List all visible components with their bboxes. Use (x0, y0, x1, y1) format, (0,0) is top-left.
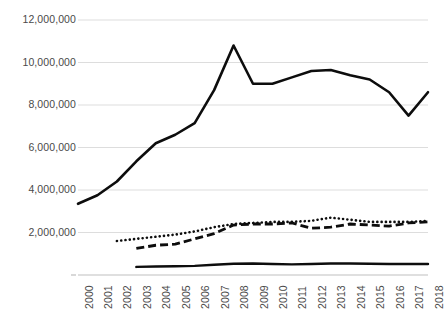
x-axis-tick-label: 2005 (180, 285, 192, 309)
x-axis-tick-label: 2010 (277, 285, 289, 309)
x-axis-tick-label: 2000 (83, 285, 95, 309)
x-axis-tick-label: 2015 (374, 285, 386, 309)
x-axis-tick-label: 2003 (141, 285, 153, 309)
x-axis-tick-label: 2009 (258, 285, 270, 309)
x-axis-tick-label: 2001 (102, 285, 114, 309)
x-axis-tick-label: 2012 (316, 285, 328, 309)
x-axis-tick-label: 2004 (160, 285, 172, 309)
x-axis-tick-label: 2006 (199, 285, 211, 309)
x-axis-tick-label: 2011 (296, 286, 308, 309)
x-axis-tick-label: 2007 (219, 285, 231, 309)
x-axis-tick-label: 2008 (238, 285, 250, 309)
x-axis-tick-label: 2016 (394, 285, 406, 309)
x-axis-tick-label: 2013 (335, 285, 347, 309)
x-axis-tick-label: 2018 (433, 285, 445, 309)
x-axis-tick-label: 2014 (355, 285, 367, 309)
x-axis-tick-label: 2017 (413, 285, 425, 309)
x-axis-tick-label: 2002 (121, 285, 133, 309)
